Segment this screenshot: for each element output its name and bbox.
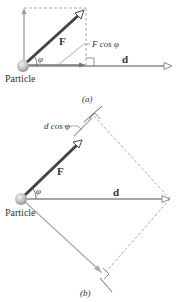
- particle-label: Particle: [5, 73, 36, 84]
- right-angle-marker: [86, 58, 94, 66]
- projection-label-b: d cos φ: [44, 121, 70, 131]
- force-label: F: [59, 35, 66, 47]
- caption-b: (b): [80, 288, 91, 298]
- right-angle-bottom: [103, 268, 109, 279]
- projection-tick-top: [84, 106, 102, 122]
- d-arrowhead-icon: [164, 63, 172, 70]
- projection-tick-bottom: [100, 278, 112, 292]
- panel-a: F φ F cos φ d Particle (a): [5, 8, 172, 104]
- d-arrowhead-b-icon: [162, 196, 170, 203]
- angle-label-b: φ: [36, 186, 41, 196]
- force-F-b: [25, 145, 77, 195]
- displacement-label: d: [122, 53, 128, 65]
- displacement-label-b: d: [113, 186, 119, 198]
- work-projection-diagram: F φ F cos φ d Particle (a): [0, 0, 178, 302]
- vertical-arrowhead-icon: [22, 8, 27, 14]
- force-F: [26, 14, 80, 63]
- upper-component: [74, 118, 92, 136]
- particle-label-b: Particle: [5, 207, 36, 218]
- caption-a: (a): [82, 94, 93, 104]
- dashed-upper-right: [94, 116, 170, 199]
- leader-line: [58, 44, 84, 65]
- particle-b: [15, 193, 27, 205]
- projection-label: F cos φ: [91, 39, 119, 49]
- particle: [17, 60, 29, 72]
- force-label-b: F: [57, 165, 64, 177]
- panel-b: F φ d cos φ d Particle (b): [5, 106, 170, 298]
- dashed-lower-right: [104, 199, 170, 274]
- angle-label: φ: [38, 54, 43, 64]
